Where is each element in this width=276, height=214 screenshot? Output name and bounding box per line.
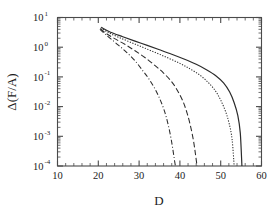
y-tick-label-base: 10	[33, 101, 44, 112]
y-tick-label-exponent: -1	[45, 69, 51, 77]
y-tick-label-base: 10	[33, 12, 44, 23]
y-axis-label: Δ(F/A)	[4, 73, 19, 110]
x-axis-minor-ticks	[66, 18, 254, 167]
x-tick-label: 30	[134, 170, 145, 181]
x-tick-label: 20	[93, 170, 104, 181]
x-tick-label: 40	[175, 170, 186, 181]
y-axis-minor-ticks	[58, 19, 262, 157]
y-axis-major-ticks	[58, 18, 262, 167]
y-tick-label-exponent: -3	[45, 129, 51, 137]
y-tick-label: 10-4	[33, 158, 51, 171]
y-tick-label-base: 10	[33, 161, 44, 172]
y-tick-label: 10-1	[33, 69, 51, 82]
x-axis-label: D	[154, 193, 163, 208]
y-tick-label: 101	[33, 10, 49, 23]
y-tick-label-exponent: 0	[45, 40, 49, 48]
y-tick-label: 10-3	[33, 129, 51, 142]
semilog-line-chart: 102030405060 10-410-310-210-1100101 D Δ(…	[0, 0, 276, 214]
y-tick-label: 100	[33, 40, 49, 53]
x-tick-label: 50	[215, 170, 226, 181]
y-tick-label-base: 10	[33, 72, 44, 83]
x-axis-tick-labels: 102030405060	[52, 170, 267, 181]
plot-frame	[58, 18, 262, 167]
y-tick-label-exponent: -4	[45, 158, 51, 166]
y-tick-label-base: 10	[33, 131, 44, 142]
figure-container: 102030405060 10-410-310-210-1100101 D Δ(…	[0, 0, 276, 214]
x-axis-major-ticks	[58, 18, 262, 167]
data-curves	[100, 27, 242, 166]
y-tick-label-exponent: -2	[45, 99, 51, 107]
curve-1-dash-dot	[100, 29, 175, 166]
x-tick-label: 10	[52, 170, 63, 181]
y-tick-label-exponent: 1	[45, 10, 49, 18]
curve-3-dotted	[101, 28, 234, 166]
y-tick-label-base: 10	[33, 42, 44, 53]
curve-2-dashed	[100, 29, 197, 166]
curve-4-solid	[101, 27, 242, 166]
axes-frame	[58, 18, 262, 167]
x-tick-label: 60	[256, 170, 267, 181]
y-tick-label: 10-2	[33, 99, 51, 112]
y-axis-tick-labels: 10-410-310-210-1100101	[33, 10, 51, 172]
